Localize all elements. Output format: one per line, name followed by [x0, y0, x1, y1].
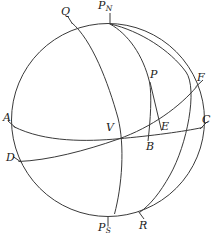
label-south-pole-main: P	[98, 221, 105, 234]
label-north-pole-main: P	[98, 0, 105, 12]
limb-circle	[12, 24, 205, 217]
sphere-diagram-canvas	[0, 0, 215, 239]
label-p: P	[150, 69, 157, 80]
label-south-pole-sub: S	[106, 226, 111, 235]
label-c: C	[202, 114, 210, 125]
label-north-pole: PN	[98, 0, 112, 13]
tick-mark-r	[139, 212, 145, 220]
celestial-sphere-figure: Q PN P F A C E V B D PS R	[0, 0, 215, 239]
label-q: Q	[61, 6, 70, 17]
label-d: D	[6, 152, 15, 163]
label-a: A	[3, 112, 11, 123]
label-r: R	[139, 220, 147, 231]
label-f: F	[197, 72, 205, 83]
horizon-arc	[72, 23, 122, 215]
label-v: V	[106, 122, 114, 133]
hour-circle-arc	[110, 24, 151, 141]
colure-arc	[111, 24, 192, 213]
label-north-pole-sub: N	[106, 4, 113, 13]
label-e: E	[161, 121, 169, 132]
label-south-pole: PS	[98, 222, 111, 235]
label-b: B	[146, 141, 154, 152]
